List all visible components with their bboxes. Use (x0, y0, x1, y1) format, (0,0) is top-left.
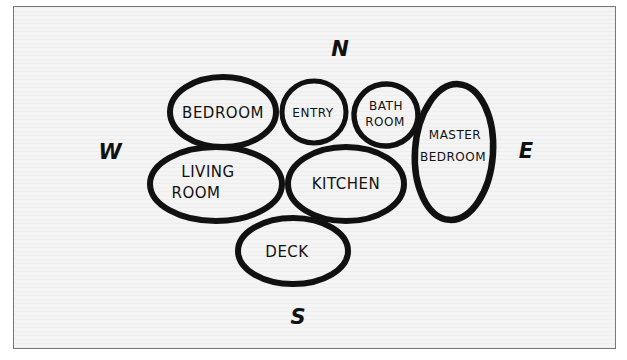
label-bedroom: BEDROOM (182, 104, 264, 122)
label-bath-line2: ROOM (365, 115, 405, 129)
label-bath-line1: BATH (369, 99, 403, 113)
compass-east: E (519, 139, 534, 163)
label-entry: ENTRY (292, 106, 333, 120)
label-master-line2: BEDROOM (420, 150, 486, 164)
compass-south: S (290, 305, 305, 329)
compass-west: W (98, 140, 122, 164)
label-master-line1: MASTER (429, 128, 481, 142)
label-living-line2: ROOM (172, 184, 221, 202)
label-kitchen: KITCHEN (312, 175, 381, 193)
compass-north: N (331, 37, 349, 61)
label-living-line1: LIVING (181, 163, 234, 181)
bubble-diagram: N W E S BEDROOM ENTRY BATH ROOM MASTER B… (0, 0, 627, 360)
label-deck: DECK (265, 243, 309, 261)
